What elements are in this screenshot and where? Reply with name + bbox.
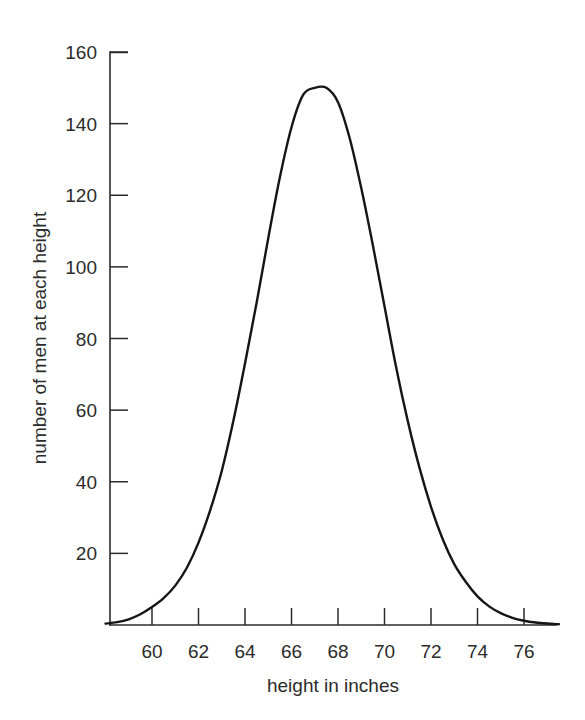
y-tick-label-group: 20406080100120140160 (65, 42, 97, 564)
x-tick-label-group: 606264666870727476 (141, 641, 534, 662)
distribution-curve (106, 86, 559, 624)
y-tick-label: 60 (76, 400, 97, 421)
distribution-curve-chart: 20406080100120140160 606264666870727476 … (0, 0, 585, 720)
y-tick-label: 160 (65, 42, 97, 63)
x-tick-label: 76 (513, 641, 534, 662)
x-tick-label: 74 (467, 641, 489, 662)
y-tick-group (110, 52, 128, 553)
x-axis-title: height in inches (267, 675, 399, 696)
y-tick-label: 80 (76, 329, 97, 350)
x-tick-label: 72 (420, 641, 441, 662)
y-tick-label: 20 (76, 543, 97, 564)
x-tick-label: 68 (327, 641, 348, 662)
x-tick-group (152, 608, 524, 625)
x-tick-label: 60 (141, 641, 162, 662)
chart-figure: 20406080100120140160 606264666870727476 … (0, 0, 585, 720)
y-axis-title: number of men at each height (29, 211, 50, 464)
x-tick-label: 70 (374, 641, 395, 662)
y-tick-label: 100 (65, 257, 97, 278)
x-tick-label: 66 (281, 641, 302, 662)
y-tick-label: 120 (65, 185, 97, 206)
y-tick-label: 40 (76, 472, 97, 493)
y-tick-label: 140 (65, 114, 97, 135)
x-tick-label: 62 (188, 641, 209, 662)
x-tick-label: 64 (234, 641, 256, 662)
